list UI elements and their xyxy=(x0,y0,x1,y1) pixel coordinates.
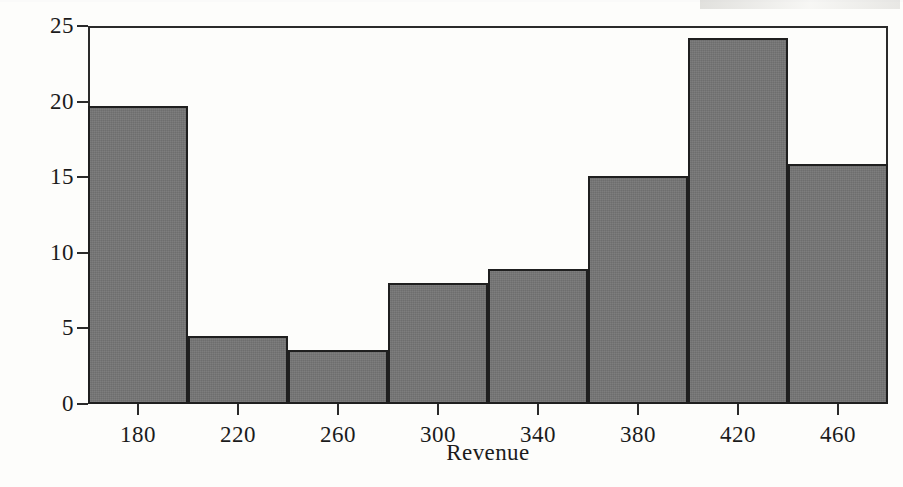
y-axis-tick xyxy=(77,327,88,329)
x-axis-tick xyxy=(437,404,439,415)
x-axis-title: Revenue xyxy=(88,440,888,466)
y-axis-tick-label: 10 xyxy=(50,240,74,266)
histogram-bar xyxy=(488,269,588,404)
y-axis-tick xyxy=(77,101,88,103)
x-axis-tick xyxy=(537,404,539,415)
scan-artifact-top-right xyxy=(700,0,900,9)
y-axis-tick xyxy=(77,176,88,178)
y-axis-tick-label: 20 xyxy=(50,89,74,115)
histogram-bar xyxy=(388,283,488,404)
histogram-bar xyxy=(288,350,388,404)
histogram-figure: 0510152025 Percent 180220260300340380420… xyxy=(0,0,903,487)
y-axis-tick-label: 15 xyxy=(50,164,74,190)
histogram-bar xyxy=(788,164,888,404)
x-axis-tick xyxy=(737,404,739,415)
x-axis-tick xyxy=(137,404,139,415)
y-axis-tick xyxy=(77,25,88,27)
y-axis-tick-labels: 0510152025 xyxy=(0,26,74,404)
x-axis-tick xyxy=(637,404,639,415)
plot-area: 180220260300340380420460 xyxy=(88,26,888,404)
histogram-bar xyxy=(588,176,688,404)
y-axis-tick-label: 0 xyxy=(62,391,74,417)
y-axis-tick-label: 25 xyxy=(50,13,74,39)
x-axis-tick xyxy=(237,404,239,415)
y-axis-tick xyxy=(77,252,88,254)
x-axis-tick xyxy=(337,404,339,415)
x-axis-tick xyxy=(837,404,839,415)
histogram-bar xyxy=(688,38,788,404)
plot-frame-top xyxy=(88,26,888,28)
histogram-bar xyxy=(188,336,288,404)
y-axis-tick-label: 5 xyxy=(62,315,74,341)
histogram-bar xyxy=(88,106,188,404)
y-axis-tick xyxy=(77,403,88,405)
